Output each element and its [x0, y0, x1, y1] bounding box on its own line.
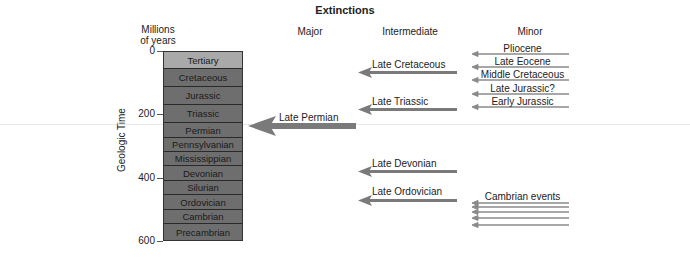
label-middle-cretaceous: Middle Cretaceous: [476, 69, 569, 80]
label-late-ordovician: Late Ordovician: [372, 186, 442, 197]
label-cambrian-events: Cambrian events: [476, 191, 569, 202]
label-late-eocene: Late Eocene: [476, 56, 569, 67]
label-early-jurassic: Early Jurassic: [476, 96, 569, 107]
label-late-devonian: Late Devonian: [372, 158, 437, 169]
label-late-jurassic: Late Jurassic?: [476, 83, 569, 94]
label-late-cretaceous: Late Cretaceous: [372, 59, 445, 70]
extinction-arrows: [0, 0, 690, 257]
label-late-permian: Late Permian: [279, 112, 338, 123]
label-pliocene: Pliocene: [476, 43, 569, 54]
label-late-triassic: Late Triassic: [372, 96, 428, 107]
